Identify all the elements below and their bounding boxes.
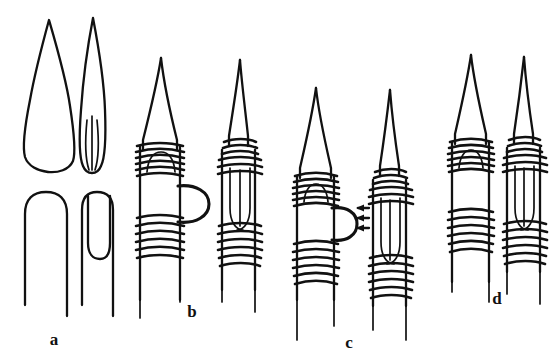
panel-label-b: b [187, 302, 196, 321]
apex-outline-right [316, 88, 331, 178]
protruding-loop [332, 208, 357, 241]
inner-dome [459, 150, 483, 168]
internal-loop-right [237, 168, 250, 230]
panel-d: d [448, 55, 547, 308]
panel-b: b [136, 58, 262, 321]
lower-coil-band [448, 209, 494, 252]
wide-lanceolate-outline [24, 20, 75, 172]
lower-coil-band [293, 241, 339, 284]
apex-outline-left [455, 55, 471, 144]
narrow-hairpin-inner [88, 196, 110, 259]
panel-b-left-structure [136, 58, 209, 318]
lanceolate-internal-slit-edge [86, 120, 89, 170]
annotation-arrows [356, 205, 369, 232]
apex-outline-left [380, 90, 390, 176]
panel-label-d: d [492, 289, 502, 308]
apex-outline-right [390, 90, 399, 176]
lanceolate-internal-slit-edge-right [95, 120, 98, 170]
apex-outline-right [471, 55, 486, 144]
internal-loop-left [230, 168, 243, 230]
panel-c-left-structure [293, 88, 357, 340]
panel-label-a: a [50, 330, 59, 349]
apex-outline-left [300, 88, 316, 178]
figure-canvas: a [0, 0, 553, 364]
panel-c-right-structure [369, 90, 413, 340]
panel-d-left-structure [448, 55, 494, 302]
wide-hairpin-outline [25, 192, 67, 316]
panel-b-right-structure [218, 60, 262, 312]
figure-root: a [0, 0, 553, 364]
apex-outline-right [161, 58, 177, 150]
panel-c: c [293, 88, 413, 352]
apex-outline-right [524, 57, 533, 144]
panel-a: a [24, 18, 113, 349]
apex-outline-left [143, 58, 161, 150]
inner-dome [304, 184, 328, 202]
apex-outline-left [514, 57, 524, 144]
panel-d-right-structure [503, 57, 547, 304]
panel-label-c: c [345, 333, 353, 352]
apex-outline-right [240, 60, 248, 146]
annotation-arrow [356, 205, 369, 212]
apex-outline-left [229, 60, 240, 146]
